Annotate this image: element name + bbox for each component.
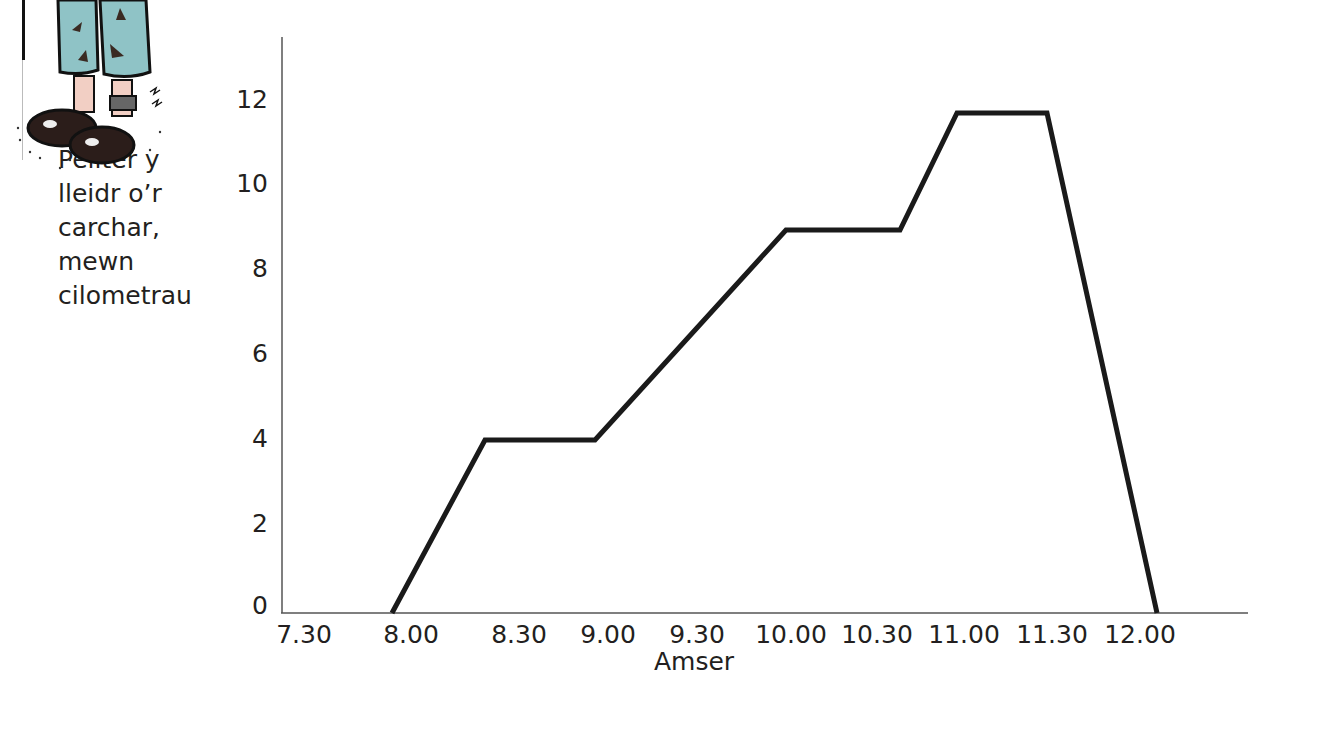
distance-line — [392, 113, 1157, 613]
prisoner-legs-with-ankle-tag-icon — [0, 0, 175, 175]
plot-area — [0, 0, 1322, 741]
distance-time-chart: Pellter y lleidr o’r carchar, mewn cilom… — [0, 0, 1322, 741]
